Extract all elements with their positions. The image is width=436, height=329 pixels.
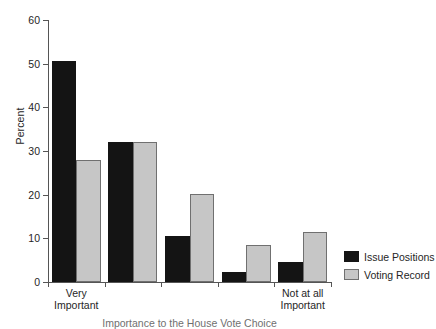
bar-issue-positions-1	[108, 142, 133, 282]
x-axis-line	[48, 282, 331, 283]
bar-voting-record-1	[133, 142, 158, 282]
x-axis-title: Importance to the House Vote Choice	[48, 317, 331, 329]
x-axis-tick	[48, 282, 49, 287]
chart-legend: Issue PositionsVoting Record	[344, 249, 435, 285]
x-axis-category-label: VeryImportant	[33, 288, 119, 311]
legend-swatch-icon	[344, 269, 359, 280]
x-axis-tick	[218, 282, 219, 287]
bar-voting-record-4	[303, 232, 328, 282]
x-axis-tick	[161, 282, 162, 287]
legend-swatch-icon	[344, 251, 359, 262]
legend-item-voting-record[interactable]: Voting Record	[344, 267, 435, 282]
x-axis-tick	[274, 282, 275, 287]
y-axis-tick-label: 0	[16, 276, 40, 288]
bar-voting-record-3	[246, 245, 271, 282]
y-axis-tick-label: 50	[16, 58, 40, 70]
y-axis-tick-label: 20	[16, 189, 40, 201]
y-axis-tick-label: 40	[16, 101, 40, 113]
x-axis-category-label: Not at allImportant	[260, 288, 346, 311]
legend-item-issue-positions[interactable]: Issue Positions	[344, 249, 435, 264]
plot-area	[48, 20, 331, 282]
legend-label: Issue Positions	[364, 251, 435, 263]
x-axis-category-line: Very	[33, 288, 119, 300]
y-axis-tick-label: 10	[16, 232, 40, 244]
bar-voting-record-2	[190, 194, 215, 282]
x-axis-tick	[331, 282, 332, 287]
bar-voting-record-0	[76, 160, 101, 282]
x-axis-category-line: Important	[33, 300, 119, 312]
bar-issue-positions-2	[165, 236, 190, 282]
y-axis-tick-label: 30	[16, 145, 40, 157]
x-axis-category-line: Important	[260, 300, 346, 312]
bar-issue-positions-3	[222, 272, 247, 282]
legend-label: Voting Record	[364, 269, 430, 281]
x-axis-tick	[105, 282, 106, 287]
y-axis-tick-label: 60	[16, 14, 40, 26]
bar-issue-positions-4	[278, 262, 303, 282]
x-axis-category-line: Not at all	[260, 288, 346, 300]
bar-issue-positions-0	[52, 61, 77, 282]
